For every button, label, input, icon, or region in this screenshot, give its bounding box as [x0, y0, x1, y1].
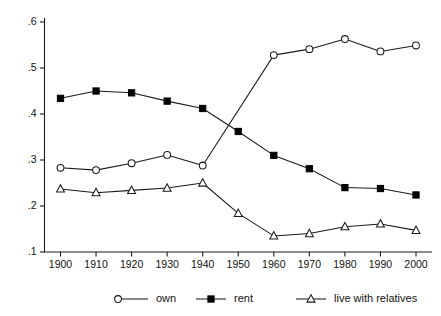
x-axis-tick-label: 2000 [404, 258, 428, 270]
data-point [342, 36, 349, 43]
x-axis-tick-label: 1950 [227, 258, 251, 270]
legend-label: own [156, 292, 176, 304]
legend-item-live-with-relatives: live with relatives [296, 292, 418, 304]
x-axis-tick-label: 1970 [298, 258, 322, 270]
data-point [377, 185, 383, 191]
legend-item-rent: rent [196, 292, 253, 304]
data-point [271, 152, 277, 158]
y-axis-tick-label: .2 [28, 199, 37, 211]
data-point [164, 98, 170, 104]
x-axis-tick-label: 1980 [333, 258, 357, 270]
series-path [61, 39, 417, 170]
legend-item-own: own [115, 292, 177, 304]
data-point [57, 95, 63, 101]
line-chart: .1.2.3.4.5.6 190019101920193019401950196… [0, 0, 441, 316]
data-point [306, 46, 313, 53]
y-axis-tick-label: .3 [28, 153, 37, 165]
series-rent [57, 88, 419, 198]
x-axis-tick-label: 1920 [120, 258, 144, 270]
data-point [413, 192, 419, 198]
data-point [93, 167, 100, 174]
data-point [93, 88, 99, 94]
data-point [200, 105, 206, 111]
data-point [306, 166, 312, 172]
x-axis-tick-label: 1900 [49, 258, 73, 270]
x-axis: 1900191019201930194019501960197019801990… [45, 252, 433, 270]
legend-label: rent [234, 292, 253, 304]
y-axis-tick-label: .6 [28, 15, 37, 27]
legend-marker [307, 295, 315, 302]
x-axis-tick-label: 1910 [84, 258, 108, 270]
data-point [164, 152, 171, 159]
data-point [199, 162, 206, 169]
series-layer [57, 36, 420, 239]
data-point [57, 185, 65, 192]
legend-label: live with relatives [334, 292, 418, 304]
data-point [199, 179, 207, 186]
x-axis-tick-label: 1960 [262, 258, 286, 270]
data-point [235, 128, 241, 134]
series-own [57, 36, 419, 174]
chart-canvas: .1.2.3.4.5.6 190019101920193019401950196… [0, 0, 441, 316]
legend-marker [208, 296, 214, 302]
y-axis: .1.2.3.4.5.6 [28, 15, 45, 257]
data-point [342, 185, 348, 191]
chart-legend: ownrentlive with relatives [115, 292, 418, 304]
y-axis-tick-label: .5 [28, 61, 37, 73]
y-axis-tick-label: .4 [28, 107, 37, 119]
y-axis-tick-label: .1 [28, 245, 37, 257]
data-point [129, 90, 135, 96]
data-point [234, 209, 242, 216]
data-point [57, 164, 64, 171]
data-point [128, 160, 135, 167]
data-point [413, 42, 420, 49]
x-axis-tick-label: 1990 [369, 258, 393, 270]
legend-marker [115, 296, 122, 303]
series-path [61, 91, 417, 195]
x-axis-tick-label: 1930 [155, 258, 179, 270]
data-point [376, 220, 384, 227]
data-point [377, 48, 384, 55]
data-point [270, 52, 277, 59]
x-axis-tick-label: 1940 [191, 258, 215, 270]
